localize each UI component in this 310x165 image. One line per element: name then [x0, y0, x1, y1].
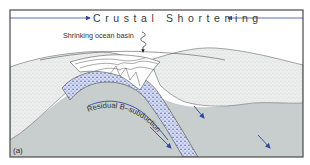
- panel-label: (a): [13, 146, 23, 155]
- diagram-title: Crustal Shortening: [93, 12, 263, 24]
- crustal-shortening-diagram: Residual B–subduction Crustal Shortening…: [0, 0, 310, 165]
- ocean-basin-label: Shrinking ocean basin: [63, 31, 134, 40]
